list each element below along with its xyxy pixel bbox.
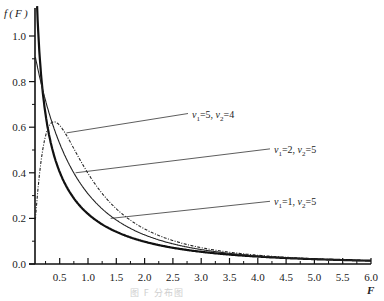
leader-line (66, 114, 188, 133)
x-tick-label: 3.5 (223, 271, 237, 283)
x-tick-label: 6.0 (364, 271, 378, 283)
y-tick-label: 0.0 (12, 258, 26, 270)
y-tick-label: 0.4 (12, 167, 26, 179)
x-tick-label: 4.0 (251, 271, 265, 283)
x-axis-title: F (366, 284, 375, 296)
x-tick-label: 1.0 (81, 271, 95, 283)
x-tick-label: 5.0 (308, 271, 322, 283)
curves (35, 6, 371, 261)
curve-nu1-1-nu2-5 (37, 6, 371, 261)
x-tick-label: 4.5 (279, 271, 293, 283)
leader-line (111, 201, 270, 218)
axes: 0.00.20.40.60.81.00.51.01.52.02.53.03.54… (4, 7, 378, 296)
x-tick-label: 2.0 (138, 271, 152, 283)
y-tick-label: 0.8 (12, 76, 26, 88)
curve-nu1-2-nu2-5 (35, 57, 371, 261)
x-tick-label: 5.5 (336, 271, 350, 283)
x-tick-label: 2.5 (166, 271, 180, 283)
y-tick-label: 1.0 (12, 30, 26, 42)
y-tick-label: 0.2 (12, 212, 26, 224)
legend-label-1: ν1=5, ν2=4 (192, 109, 234, 123)
x-tick-label: 0.5 (53, 271, 67, 283)
y-tick-label: 0.6 (12, 121, 26, 133)
legend-annotations: ν1=5, ν2=4ν1=2, ν2=5ν1=1, ν2=5 (66, 109, 316, 219)
legend-label-2: ν1=2, ν2=5 (274, 144, 316, 158)
figure-caption: 图 F 分布图 (130, 286, 184, 299)
legend-label-3: ν1=1, ν2=5 (274, 196, 316, 210)
y-axis-title: f ( F ) (4, 7, 28, 20)
f-distribution-chart: 0.00.20.40.60.81.00.51.01.52.02.53.03.54… (0, 0, 384, 301)
x-tick-label: 3.0 (194, 271, 208, 283)
leader-line (76, 149, 270, 173)
x-tick-label: 1.5 (109, 271, 123, 283)
